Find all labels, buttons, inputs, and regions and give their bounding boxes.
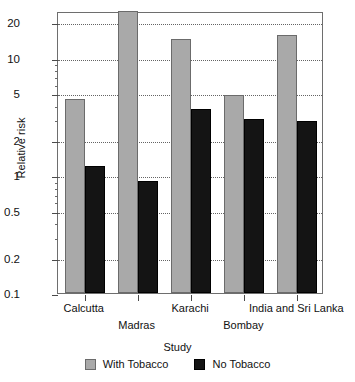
chart-legend: With Tobacco No Tobacco bbox=[0, 358, 355, 370]
x-axis-label-madras: Madras bbox=[118, 320, 155, 331]
y-axis-minor-tick bbox=[55, 203, 58, 204]
y-axis-minor-tick bbox=[55, 65, 58, 66]
plot-area: 20105210.50.20.1 bbox=[57, 12, 323, 294]
y-axis-tick bbox=[52, 295, 58, 296]
y-axis-tick bbox=[52, 95, 58, 96]
y-axis-tick bbox=[52, 213, 58, 214]
y-axis-minor-tick bbox=[55, 78, 58, 79]
bar-karachi-with-tobacco bbox=[171, 39, 191, 293]
bar-madras-no-tobacco bbox=[138, 181, 158, 293]
gridline bbox=[58, 24, 322, 25]
y-axis-minor-tick bbox=[55, 86, 58, 87]
bar-bombay-with-tobacco bbox=[224, 95, 244, 293]
y-axis-tick-label: 1 bbox=[0, 171, 20, 183]
x-axis-label-karachi: Karachi bbox=[172, 303, 209, 314]
gray-swatch-icon bbox=[85, 359, 96, 370]
legend-label-no-tobacco: No Tobacco bbox=[212, 358, 270, 370]
y-axis-tick bbox=[52, 60, 58, 61]
y-axis-tick-label: 2 bbox=[0, 136, 20, 148]
bar-bombay-no-tobacco bbox=[244, 119, 264, 293]
bar-karachi-no-tobacco bbox=[191, 109, 211, 293]
bar-calcutta-with-tobacco bbox=[65, 99, 85, 293]
x-axis-tick bbox=[297, 295, 298, 301]
y-axis-tick-label: 0.2 bbox=[0, 254, 20, 266]
x-axis-title: Study bbox=[0, 341, 355, 353]
legend-label-with-tobacco: With Tobacco bbox=[103, 358, 169, 370]
y-axis-tick-label: 10 bbox=[0, 54, 20, 66]
legend-item-with-tobacco: With Tobacco bbox=[85, 358, 169, 370]
y-axis-tick-label: 20 bbox=[0, 18, 20, 30]
y-axis-tick-label: 0.5 bbox=[0, 207, 20, 219]
x-axis-tick bbox=[138, 295, 139, 301]
black-swatch-icon bbox=[194, 359, 205, 370]
y-axis-tick bbox=[52, 177, 58, 178]
bar-india-and-sri-lanka-with-tobacco bbox=[277, 35, 297, 293]
x-axis-label-india-and-sri-lanka: India and Sri Lanka bbox=[249, 303, 344, 314]
y-axis-minor-tick bbox=[55, 183, 58, 184]
y-axis-tick bbox=[52, 142, 58, 143]
y-axis-title: Relative risk bbox=[15, 88, 27, 208]
y-axis-minor-tick bbox=[55, 71, 58, 72]
y-axis-tick-label: 5 bbox=[0, 89, 20, 101]
bar-madras-with-tobacco bbox=[118, 11, 138, 293]
y-axis-minor-tick bbox=[55, 121, 58, 122]
y-axis-tick bbox=[52, 24, 58, 25]
y-axis-tick-label: 0.1 bbox=[0, 289, 20, 301]
y-axis-tick bbox=[52, 260, 58, 261]
legend-item-no-tobacco: No Tobacco bbox=[194, 358, 270, 370]
bar-india-and-sri-lanka-no-tobacco bbox=[297, 121, 317, 293]
y-axis-minor-tick bbox=[55, 196, 58, 197]
x-axis-tick bbox=[244, 295, 245, 301]
x-axis-label-calcutta: Calcutta bbox=[64, 303, 104, 314]
x-axis-tick bbox=[85, 295, 86, 301]
bar-calcutta-no-tobacco bbox=[85, 166, 105, 293]
relative-risk-bar-chart: Relative risk 20105210.50.20.1 CalcuttaM… bbox=[0, 0, 355, 382]
x-axis-label-bombay: Bombay bbox=[223, 320, 263, 331]
y-axis-minor-tick bbox=[55, 239, 58, 240]
y-axis-minor-tick bbox=[55, 189, 58, 190]
x-axis-tick bbox=[191, 295, 192, 301]
y-axis-minor-tick bbox=[55, 224, 58, 225]
y-axis-minor-tick bbox=[55, 107, 58, 108]
